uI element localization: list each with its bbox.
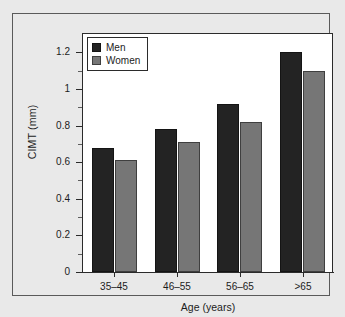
y-tick-label: 0.8 [36, 121, 70, 131]
y-axis-label: CIMT (mm) [26, 77, 38, 187]
x-tick-label: 46–55 [147, 281, 207, 292]
legend-swatch-women-icon [92, 56, 101, 65]
bar-women-2 [240, 122, 262, 272]
y-minor-tick-mark [78, 254, 82, 255]
bar-men-0 [92, 148, 114, 272]
y-tick-mark [76, 272, 82, 273]
x-tick-mark [303, 272, 304, 277]
y-tick-mark [76, 162, 82, 163]
y-tick-label: 0.4 [36, 194, 70, 204]
figure-outer-frame: 00.20.40.60.811.2 35–4546–5556–65>65 CIM… [12, 13, 330, 296]
y-tick-mark [76, 89, 82, 90]
y-tick-mark [76, 199, 82, 200]
legend-item-men: Men [92, 41, 140, 54]
x-tick-mark [114, 272, 115, 277]
x-tick-label: 35–45 [84, 281, 144, 292]
legend-label-women: Women [106, 55, 140, 66]
y-minor-tick-mark [78, 107, 82, 108]
y-tick-mark [76, 235, 82, 236]
y-tick-label: 0.6 [36, 157, 70, 167]
bar-women-1 [178, 142, 200, 272]
y-minor-tick-mark [78, 144, 82, 145]
x-axis-label: Age (years) [82, 301, 334, 313]
bar-women-0 [115, 160, 137, 272]
y-minor-tick-mark [78, 71, 82, 72]
chart-legend: Men Women [87, 37, 148, 71]
bar-men-3 [280, 52, 302, 272]
y-minor-tick-mark [78, 180, 82, 181]
y-tick-mark [76, 52, 82, 53]
legend-item-women: Women [92, 54, 140, 67]
y-tick-label: 0 [36, 267, 70, 277]
x-axis-line [82, 272, 334, 273]
y-minor-tick-mark [78, 217, 82, 218]
y-tick-label: 0.2 [36, 230, 70, 240]
y-tick-label: 1 [36, 84, 70, 94]
x-tick-mark [177, 272, 178, 277]
x-tick-label: >65 [273, 281, 333, 292]
legend-label-men: Men [106, 42, 125, 53]
y-tick-mark [76, 126, 82, 127]
bar-men-2 [217, 104, 239, 272]
y-tick-label: 1.2 [36, 47, 70, 57]
bar-women-3 [303, 71, 325, 272]
legend-swatch-men-icon [92, 43, 101, 52]
bar-men-1 [155, 129, 177, 272]
figure-canvas: 00.20.40.60.811.2 35–4546–5556–65>65 CIM… [0, 0, 345, 317]
x-tick-label: 56–65 [210, 281, 270, 292]
x-tick-mark [240, 272, 241, 277]
